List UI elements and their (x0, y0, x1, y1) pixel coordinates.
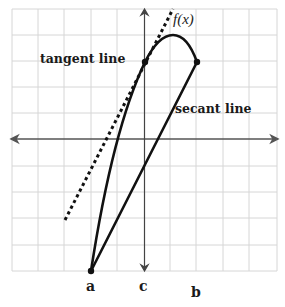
secant-line-label: secant line (175, 101, 251, 116)
function-label: f(x) (173, 11, 194, 28)
tangent-point-dot (142, 59, 148, 65)
point-c-label: c (139, 278, 148, 294)
tangent-secant-diagram: f(x) tangent line secant line a c b (0, 0, 285, 307)
point-a-dot (88, 268, 94, 274)
secant-end-dot (194, 59, 200, 65)
tangent-line (65, 9, 173, 220)
point-a-label: a (86, 278, 95, 294)
point-b-label: b (191, 284, 201, 300)
y-axis (141, 9, 148, 271)
tangent-line-label: tangent line (40, 51, 125, 66)
